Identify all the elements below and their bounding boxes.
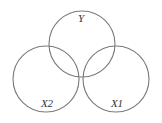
venn-diagram: Y X2 X1: [0, 0, 162, 123]
label-x1: X1: [110, 97, 123, 109]
label-x2: X2: [40, 97, 54, 109]
label-y: Y: [78, 12, 86, 24]
